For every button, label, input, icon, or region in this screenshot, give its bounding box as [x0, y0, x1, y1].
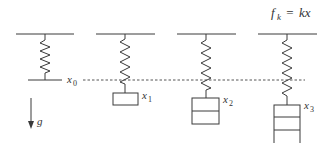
label-x1-sub: 1	[148, 95, 152, 104]
label-x0-sub: 0	[73, 79, 77, 88]
hooke-law-formula: f k = kx	[271, 5, 311, 22]
spring-three-masses: x 3	[258, 34, 317, 143]
spring-coil-icon	[40, 34, 50, 80]
mass-block	[113, 93, 138, 105]
spring-unloaded: x 0	[16, 34, 77, 88]
spring-two-masses: x 2	[177, 34, 236, 124]
gravity-indicator: g	[28, 98, 43, 129]
formula-equals: =	[283, 5, 297, 20]
mass-stack	[274, 105, 300, 143]
label-x1-var: x	[141, 89, 147, 101]
spring-coil-icon	[282, 34, 292, 105]
label-x2-sub: 2	[229, 99, 233, 108]
formula-lhs-sub: k	[277, 12, 282, 22]
gravity-label: g	[37, 115, 43, 127]
spring-diagram: f k = kx x 0 x 1 x 2 x 3	[0, 0, 335, 143]
label-x2-var: x	[222, 93, 228, 105]
label-x0-var: x	[66, 73, 72, 85]
spring-one-mass: x 1	[96, 34, 155, 105]
formula-rhs: kx	[299, 5, 311, 20]
label-x3-sub: 3	[310, 105, 314, 114]
spring-coil-icon	[120, 34, 130, 93]
arrow-down-icon	[28, 121, 34, 129]
label-x3-var: x	[303, 99, 309, 111]
spring-coil-icon	[201, 34, 211, 98]
